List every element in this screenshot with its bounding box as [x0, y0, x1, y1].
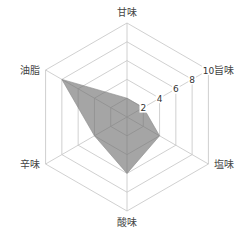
radar-tick-labels: 246810	[139, 64, 215, 113]
axis-label-0: 甘味	[117, 6, 137, 18]
tick-label: 6	[173, 84, 179, 94]
axis-label-5: 油脂	[20, 64, 40, 76]
axis-label-1: 旨味	[214, 65, 234, 76]
axis-label-3: 酸味	[117, 216, 137, 228]
series-polygon	[62, 79, 160, 173]
tick-label: 8	[189, 75, 195, 85]
tick-label: 2	[140, 103, 146, 113]
tick-label: 4	[157, 94, 163, 104]
radar-chart: 246810 甘味旨味塩味酸味辛味油脂	[0, 0, 249, 241]
axis-label-4: 辛味	[20, 158, 40, 170]
radar-series-area	[62, 79, 160, 173]
tick-label: 10	[203, 66, 215, 76]
axis-label-2: 塩味	[214, 158, 234, 170]
